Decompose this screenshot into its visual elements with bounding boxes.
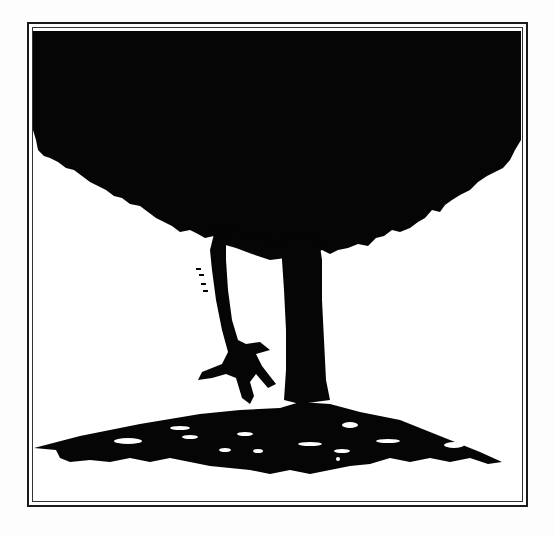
- motion-marks: [196, 268, 208, 292]
- hanging-figure: [198, 234, 276, 404]
- ground-mound: [34, 402, 502, 474]
- tree-trunk: [282, 232, 330, 404]
- tree-silhouette-illustration: [0, 0, 554, 536]
- tree-canopy: [33, 31, 521, 254]
